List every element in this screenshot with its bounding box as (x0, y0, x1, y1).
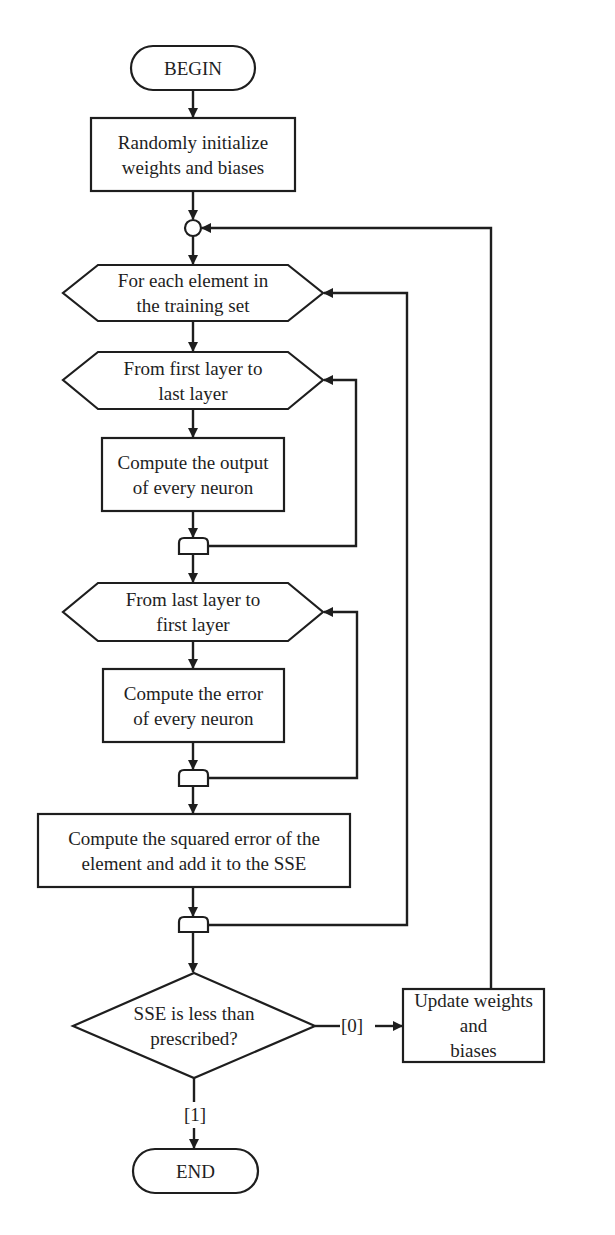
init-label: Randomly initialize weights and biases (91, 118, 295, 191)
loop-end-elements (179, 917, 208, 932)
loop-end-backward (179, 770, 208, 786)
begin-label: BEGIN (131, 46, 255, 90)
compute-error-label: Compute the error of every neuron (103, 669, 284, 742)
loop-elements-label: For each element in the training set (63, 265, 323, 321)
end-label: END (133, 1149, 258, 1193)
edge-label-yes: [1] (183, 1105, 207, 1125)
loop-forward-label: From first layer to last layer (63, 352, 323, 409)
compute-sse-label: Compute the squared error of the element… (38, 814, 350, 887)
loop-backward-label: From last layer to first layer (63, 583, 323, 641)
compute-output-label: Compute the output of every neuron (102, 438, 284, 511)
flowchart-canvas: BEGIN Randomly initialize weights and bi… (0, 0, 615, 1235)
edge-label-no: [0] (340, 1016, 364, 1036)
decision-label: SSE is less than prescribed? (73, 973, 315, 1078)
update-label: Update weights and biases (403, 989, 544, 1062)
merge-connector-circle (185, 220, 201, 236)
loop-end-forward (179, 538, 208, 554)
